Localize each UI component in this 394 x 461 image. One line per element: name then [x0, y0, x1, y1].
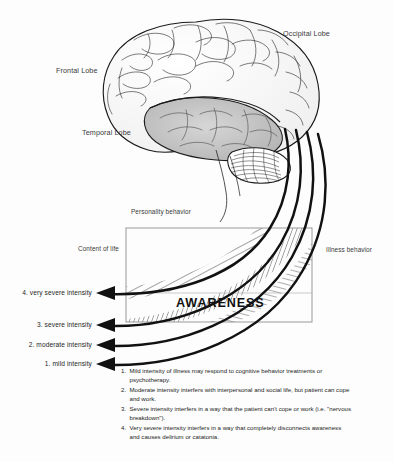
diagram-canvas: Frontal Lobe Temporal Lobe Occipital Lob…: [0, 0, 394, 461]
personality-behavior-label: Personality behavior: [131, 208, 191, 215]
intensity-arrowheads: [96, 286, 115, 371]
legend-text: Very severe intensity interfers in a way…: [130, 423, 354, 442]
occipital-lobe-label: Occipital Lobe: [283, 29, 330, 38]
legend-number: 2.: [121, 385, 130, 394]
legend-text: Mild intensity of illness may respond to…: [130, 366, 354, 385]
legend-number: 3.: [121, 404, 130, 413]
content-of-life-label: Content of life: [78, 245, 119, 252]
legend-item: 2. Moderate intensity interfers with int…: [121, 385, 353, 404]
legend-text: Moderate intensity interfers with interp…: [130, 385, 354, 404]
frontal-lobe-label: Frontal Lobe: [56, 66, 98, 75]
intensity-label-1: 1. mild intensity: [0, 360, 92, 367]
intensity-label-4: 4. very severe intensity: [0, 289, 92, 296]
legend-number: 4.: [121, 423, 130, 432]
brain-illustration: [103, 19, 319, 222]
legend-item: 1. Mild intensity of illness may respond…: [121, 366, 353, 385]
legend-number: 1.: [121, 366, 130, 375]
legend-item: 3. Severe intensity interfers in a way t…: [121, 404, 353, 423]
intensity-label-3: 3. severe intensity: [0, 321, 92, 328]
intensity-label-2: 2. moderate intensity: [0, 341, 92, 348]
legend-list: 1. Mild intensity of illness may respond…: [121, 366, 353, 442]
awareness-center-word: AWARENESS: [176, 296, 265, 310]
temporal-lobe-label: Temporal Lobe: [82, 128, 131, 137]
legend-text: Severe intensity interfers in a way that…: [130, 404, 354, 423]
illness-behavior-label: Illness behavior: [326, 246, 372, 253]
legend-item: 4. Very severe intensity interfers in a …: [121, 423, 353, 442]
